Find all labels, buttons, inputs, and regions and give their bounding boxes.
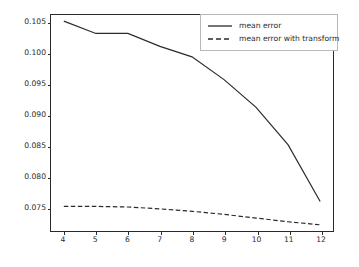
y-tick-mark xyxy=(48,147,52,148)
legend: mean error mean error with transform xyxy=(200,14,338,51)
legend-item-mean-error: mean error xyxy=(207,19,331,32)
y-tick-mark xyxy=(48,23,52,24)
x-tick-label: 9 xyxy=(212,236,236,244)
chart-figure: 0.0750.0800.0850.0900.0950.1000.105 4567… xyxy=(0,0,359,267)
y-tick-mark xyxy=(48,116,52,117)
x-tick-mark xyxy=(64,231,65,235)
y-tick-label: 0.085 xyxy=(2,142,46,150)
x-tick-label: 8 xyxy=(180,236,204,244)
y-tick-label: 0.080 xyxy=(2,174,46,182)
y-tick-label: 0.105 xyxy=(2,18,46,26)
x-tick-mark xyxy=(225,231,226,235)
series-line xyxy=(64,206,320,224)
legend-item-mean-error-with-transform: mean error with transform xyxy=(207,32,331,45)
x-tick-label: 6 xyxy=(115,236,139,244)
y-tick-mark xyxy=(48,209,52,210)
y-tick-label: 0.090 xyxy=(2,111,46,119)
x-tick-label: 5 xyxy=(83,236,107,244)
legend-line-solid-icon xyxy=(207,21,233,31)
x-tick-label: 10 xyxy=(245,236,269,244)
y-tick-label: 0.100 xyxy=(2,49,46,57)
x-tick-label: 12 xyxy=(309,236,333,244)
x-tick-mark xyxy=(322,231,323,235)
legend-line-dashed-icon xyxy=(207,34,233,44)
x-tick-mark xyxy=(258,231,259,235)
legend-label: mean error xyxy=(239,22,281,30)
x-tick-label: 11 xyxy=(277,236,301,244)
x-tick-label: 4 xyxy=(51,236,75,244)
x-tick-mark xyxy=(290,231,291,235)
y-tick-label: 0.075 xyxy=(2,205,46,213)
y-tick-mark xyxy=(48,85,52,86)
x-tick-mark xyxy=(161,231,162,235)
x-tick-mark xyxy=(96,231,97,235)
x-tick-mark xyxy=(128,231,129,235)
x-axis-tick-labels: 456789101112 xyxy=(50,236,334,250)
y-tick-mark xyxy=(48,178,52,179)
x-tick-mark xyxy=(193,231,194,235)
y-axis-tick-labels: 0.0750.0800.0850.0900.0950.1000.105 xyxy=(0,14,46,232)
y-tick-label: 0.095 xyxy=(2,80,46,88)
x-tick-label: 7 xyxy=(148,236,172,244)
y-tick-mark xyxy=(48,54,52,55)
legend-label: mean error with transform xyxy=(239,35,340,43)
